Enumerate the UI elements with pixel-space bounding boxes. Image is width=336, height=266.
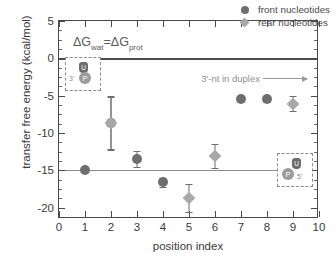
y-minor-tick — [59, 114, 62, 115]
y-minor-tick — [314, 161, 317, 162]
y-axis-title: transfer free energy (kcal/mol) — [20, 0, 32, 202]
y-minor-tick — [314, 114, 317, 115]
y-minor-tick — [314, 152, 317, 153]
y-tick-label: 5 — [48, 15, 54, 27]
y-minor-tick — [59, 86, 62, 87]
y-tick — [59, 133, 65, 134]
legend-item-rear: rear nucleotides — [238, 17, 330, 28]
y-minor-tick — [59, 152, 62, 153]
x-tick — [267, 211, 268, 217]
data-point-diamond[interactable] — [105, 116, 118, 129]
three-prime-label: 3' — [69, 75, 74, 82]
error-bar-cap — [290, 111, 297, 112]
y-minor-tick — [59, 105, 62, 106]
y-tick-label: 0 — [48, 52, 54, 64]
error-bar-cap — [134, 151, 141, 152]
error-bar-cap — [108, 96, 115, 97]
phosphate-icon: P — [282, 168, 294, 180]
x-tick-label: 0 — [56, 221, 62, 233]
legend-item-front: front nucleotides — [238, 4, 330, 15]
y-minor-tick — [59, 40, 62, 41]
y-minor-tick — [314, 30, 317, 31]
inset-five-prime: U P 5' — [277, 153, 313, 187]
x-tick-label: 3 — [134, 221, 140, 233]
x-tick — [215, 21, 216, 27]
duplex-annotation-label: 3'-nt in duplex — [201, 73, 260, 84]
inset-three-prime: U P 3' — [65, 57, 101, 91]
data-point-diamond[interactable] — [287, 98, 300, 111]
y-minor-tick — [59, 30, 62, 31]
x-tick — [85, 211, 86, 217]
y-minor-tick — [314, 189, 317, 190]
arrow-right-icon — [263, 78, 307, 79]
y-minor-tick — [59, 189, 62, 190]
y-minor-tick — [59, 142, 62, 143]
data-point-diamond[interactable] — [183, 192, 196, 205]
x-tick — [137, 211, 138, 217]
y-minor-tick — [314, 40, 317, 41]
data-point-circle[interactable] — [158, 177, 168, 187]
legend: front nucleotides rear nucleotides — [238, 4, 330, 28]
x-tick — [59, 21, 60, 27]
data-point-circle[interactable] — [80, 165, 90, 175]
circle-marker-icon — [238, 5, 251, 15]
x-tick — [85, 21, 86, 27]
y-tick — [59, 170, 65, 171]
y-tick — [59, 96, 65, 97]
free-energy-equality-annotation: ΔGwat=ΔGprot — [73, 35, 143, 52]
x-axis-title: position index — [58, 240, 318, 252]
x-tick — [189, 21, 190, 27]
y-minor-tick — [59, 161, 62, 162]
x-tick — [59, 211, 60, 217]
y-tick — [311, 208, 317, 209]
error-bar-cap — [212, 144, 219, 145]
y-minor-tick — [314, 68, 317, 69]
x-tick — [241, 211, 242, 217]
y-minor-tick — [314, 86, 317, 87]
plot-frame: 50-5-10-15-20 012345678910 ΔGwat=ΔGprot … — [58, 20, 318, 218]
x-tick-label: 9 — [290, 221, 296, 233]
y-minor-tick — [314, 198, 317, 199]
data-point-diamond[interactable] — [209, 150, 222, 163]
x-tick-label: 8 — [264, 221, 270, 233]
y-minor-tick — [59, 68, 62, 69]
five-prime-label: 5' — [297, 173, 302, 180]
y-minor-tick — [314, 180, 317, 181]
error-bar-cap — [108, 149, 115, 150]
data-point-circle[interactable] — [132, 154, 142, 164]
x-tick — [319, 211, 320, 217]
x-tick — [163, 21, 164, 27]
y-minor-tick — [59, 180, 62, 181]
x-tick-label: 2 — [108, 221, 114, 233]
x-tick-label: 1 — [82, 221, 88, 233]
y-tick-label: -15 — [37, 164, 54, 176]
legend-label-rear: rear nucleotides — [258, 17, 328, 28]
y-minor-tick — [59, 77, 62, 78]
diamond-marker-icon — [238, 18, 251, 28]
error-bar-cap — [212, 168, 219, 169]
y-tick — [311, 96, 317, 97]
y-tick-label: -5 — [44, 90, 54, 102]
x-tick-label: 4 — [160, 221, 166, 233]
x-tick-label: 5 — [186, 221, 192, 233]
x-tick-label: 10 — [313, 221, 326, 233]
y-minor-tick — [59, 124, 62, 125]
y-minor-tick — [314, 105, 317, 106]
x-tick — [163, 211, 164, 217]
y-minor-tick — [314, 124, 317, 125]
equality-dg1: ΔG — [73, 35, 91, 49]
y-minor-tick — [314, 77, 317, 78]
nucleotide-base-icon: U — [292, 158, 301, 169]
y-minor-tick — [59, 49, 62, 50]
y-tick — [311, 133, 317, 134]
data-point-circle[interactable] — [262, 94, 272, 104]
y-tick — [59, 208, 65, 209]
y-minor-tick — [314, 142, 317, 143]
equality-sub-wat: wat — [91, 43, 103, 52]
x-tick — [111, 211, 112, 217]
error-bar-cap — [134, 167, 141, 168]
x-tick — [111, 21, 112, 27]
x-tick-label: 7 — [238, 221, 244, 233]
data-point-circle[interactable] — [236, 94, 246, 104]
x-tick — [137, 21, 138, 27]
